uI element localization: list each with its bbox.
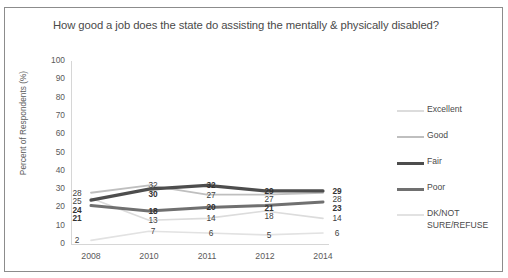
- legend-item-good[interactable]: Good: [397, 129, 501, 155]
- data-label: 6: [209, 228, 214, 238]
- legend-item-poor[interactable]: Poor: [397, 181, 501, 207]
- data-label: 13: [148, 215, 157, 225]
- legend-label: DK/NOT SURE/REFUSE: [427, 207, 488, 231]
- legend-item-excellent[interactable]: Excellent: [397, 103, 501, 129]
- legend-item-dk-not-sure-refuse[interactable]: DK/NOT SURE/REFUSE: [397, 207, 501, 241]
- legend-label: Poor: [427, 181, 445, 193]
- data-label: 30: [148, 189, 157, 199]
- data-label: 20: [206, 202, 215, 212]
- legend-label: Excellent: [427, 103, 462, 115]
- data-label: 23: [332, 203, 341, 213]
- data-label: 5: [267, 230, 272, 240]
- data-label: 6: [335, 228, 340, 238]
- legend-item-fair[interactable]: Fair: [397, 155, 501, 181]
- chart-container: How good a job does the state do assisti…: [4, 7, 503, 272]
- legend-swatch: [397, 162, 424, 165]
- legend-label: Good: [427, 129, 448, 141]
- series-line-dk-not-sure-refuse: [91, 231, 323, 240]
- legend-label: Fair: [427, 155, 442, 167]
- data-label: 18: [264, 211, 273, 221]
- chart-legend: ExcellentGoodFairPoorDK/NOT SURE/REFUSE: [397, 103, 501, 241]
- data-label: 2: [75, 235, 80, 245]
- legend-swatch: [397, 110, 424, 112]
- legend-swatch: [397, 188, 424, 191]
- data-label: 7: [151, 226, 156, 236]
- data-label: 27: [206, 190, 215, 200]
- data-label: 21: [72, 213, 81, 223]
- data-label: 14: [332, 213, 341, 223]
- data-label: 14: [206, 213, 215, 223]
- legend-swatch: [397, 136, 424, 138]
- legend-swatch: [397, 214, 424, 216]
